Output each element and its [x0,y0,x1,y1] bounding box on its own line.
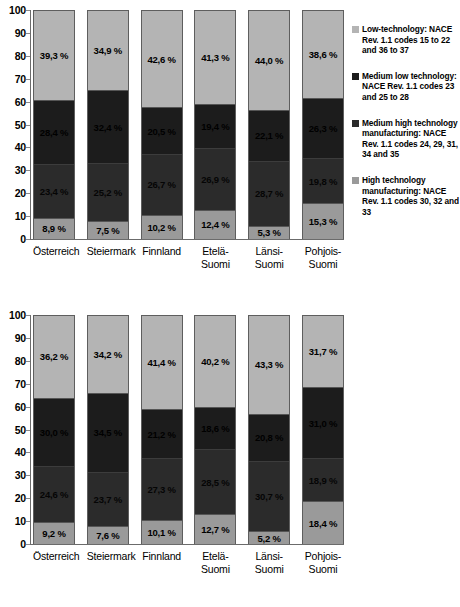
bar-segment: 39,3 % [34,11,74,101]
stacked-bar[interactable]: 43,3 %20,8 %30,7 %5,2 % [248,315,290,544]
legend-label: Medium low technology: NACE Rev. 1.1 cod… [362,71,460,103]
bar-segment: 41,3 % [195,11,235,105]
bar-segment-label: 26,9 % [201,174,229,185]
stacked-bar[interactable]: 31,7 %31,0 %18,9 %18,4 % [302,315,344,544]
x-axis-labels-top: ÖsterreichSteiermarkFinnlandEtelä-SuomiL… [33,245,344,271]
stacked-bar[interactable]: 40,2 %18,6 %28,5 %12,7 % [194,315,236,544]
bar-segment: 12,7 % [195,515,235,544]
y-tick-mark [26,521,30,522]
bar-segment-label: 18,6 % [201,423,229,434]
bar-segment-label: 39,3 % [40,50,68,61]
legend-item[interactable]: Medium low technology: NACE Rev. 1.1 cod… [352,71,460,103]
bar-segment-label: 26,7 % [147,179,175,190]
y-tick-mark [26,430,30,431]
stacked-bar[interactable]: 42,6 %20,5 %26,7 %10,2 % [141,10,183,239]
bar-segment-label: 10,1 % [147,527,175,538]
legend-swatch-icon [352,73,359,80]
bar-segment: 26,9 % [195,149,235,210]
bar-segment-label: 5,2 % [258,533,281,544]
y-tick-label: 50 [0,120,26,130]
bar-segment: 10,2 % [142,216,182,239]
bars-container-top: 39,3 %28,4 %23,4 %8,9 %34,9 %32,4 %25,2 … [33,10,344,239]
y-tick-label: 40 [0,447,26,457]
bar-segment-label: 19,4 % [201,121,229,132]
x-axis-line-bottom [30,544,344,545]
y-tick-mark [26,544,30,545]
bar-segment: 31,0 % [303,388,343,459]
stacked-bar[interactable]: 41,4 %21,2 %27,3 %10,1 % [141,315,183,544]
bar-segment-label: 30,7 % [255,491,283,502]
stacked-bar[interactable]: 38,6 %26,3 %19,8 %15,3 % [302,10,344,239]
bars-container-bottom: 36,2 %30,0 %24,6 %9,2 %34,2 %34,5 %23,7 … [33,315,344,544]
y-tick-mark [26,125,30,126]
stacked-bar[interactable]: 39,3 %28,4 %23,4 %8,9 % [33,10,75,239]
y-tick-label: 90 [0,333,26,343]
stacked-bar[interactable]: 34,9 %32,4 %25,2 %7,5 % [87,10,129,239]
legend-top: Low-technology: NACE Rev. 1.1 codes 15 t… [352,24,460,232]
x-axis-label: Etelä-Suomi [194,550,236,576]
stacked-bar-chart-top: 1009080706050403020100 39,3 %28,4 %23,4 … [0,2,460,298]
y-tick-label: 30 [0,470,26,480]
bar-segment: 21,2 % [142,410,182,458]
x-axis-label: Pohjois-Suomi [302,245,344,271]
bar-segment-label: 28,4 % [40,127,68,138]
bar-segment-label: 15,3 % [309,216,337,227]
y-tick-mark [26,407,30,408]
bar-segment-label: 41,4 % [147,357,175,368]
bar-segment: 18,4 % [303,502,343,544]
x-axis-label: Österreich [33,245,75,271]
stacked-bar[interactable]: 36,2 %30,0 %24,6 %9,2 % [33,315,75,544]
bar-segment-label: 5,3 % [258,227,281,238]
bar-segment: 44,0 % [249,11,289,111]
bar-segment-label: 40,2 % [201,356,229,367]
y-tick-mark [26,79,30,80]
y-tick-mark [26,475,30,476]
legend-item[interactable]: Low-technology: NACE Rev. 1.1 codes 15 t… [352,24,460,56]
bar-segment: 7,5 % [88,222,128,239]
y-tick-label: 10 [0,211,26,221]
bar-segment: 28,4 % [34,101,74,166]
bar-segment-label: 9,2 % [42,528,65,539]
bar-segment: 28,7 % [249,162,289,227]
bar-segment-label: 7,6 % [96,530,119,541]
x-axis-label: Finnland [141,245,183,271]
legend-swatch-icon [352,177,359,184]
stacked-bar[interactable]: 34,2 %34,5 %23,7 %7,6 % [87,315,129,544]
bar-segment: 18,6 % [195,408,235,450]
bar-segment-label: 34,2 % [94,349,122,360]
bar-segment-label: 38,6 % [309,49,337,60]
bar-column: 41,3 %19,4 %26,9 %12,4 % [194,10,236,239]
legend-item[interactable]: High technology manufacturing: NACE Rev.… [352,175,460,217]
bar-segment-label: 31,0 % [309,418,337,429]
bar-segment: 31,7 % [303,316,343,388]
bar-segment: 34,2 % [88,316,128,394]
bar-segment-label: 7,5 % [96,225,119,236]
bar-segment: 8,9 % [34,219,74,239]
y-tick-label: 10 [0,516,26,526]
y-tick-label: 100 [0,310,26,320]
bar-segment-label: 32,4 % [94,122,122,133]
bar-segment-label: 44,0 % [255,55,283,66]
bar-segment-label: 18,4 % [309,518,337,529]
plot-area-top: 1009080706050403020100 39,3 %28,4 %23,4 … [0,2,348,298]
bar-segment-label: 20,5 % [147,126,175,137]
stacked-bar[interactable]: 41,3 %19,4 %26,9 %12,4 % [194,10,236,239]
x-axis-label: Österreich [33,550,75,576]
bar-segment: 32,4 % [88,91,128,165]
bar-segment: 30,0 % [34,399,74,467]
y-tick-label: 0 [0,539,26,549]
y-tick-label: 70 [0,74,26,84]
bar-column: 44,0 %22,1 %28,7 %5,3 % [248,10,290,239]
legend-item[interactable]: Medium high technology manufacturing: NA… [352,118,460,160]
chart-page: 1009080706050403020100 39,3 %28,4 %23,4 … [0,0,460,607]
bar-segment: 5,3 % [249,227,289,239]
bar-segment: 27,3 % [142,459,182,521]
bar-segment-label: 12,7 % [201,524,229,535]
y-tick-label: 60 [0,402,26,412]
y-tick-label: 0 [0,234,26,244]
legend-label: High technology manufacturing: NACE Rev.… [362,175,460,217]
bar-segment: 24,6 % [34,467,74,523]
y-tick-mark [26,452,30,453]
stacked-bar[interactable]: 44,0 %22,1 %28,7 %5,3 % [248,10,290,239]
bar-column: 31,7 %31,0 %18,9 %18,4 % [302,315,344,544]
